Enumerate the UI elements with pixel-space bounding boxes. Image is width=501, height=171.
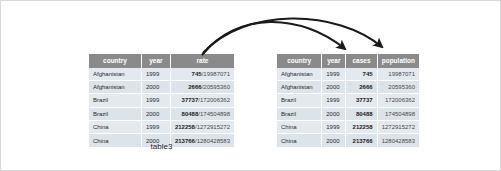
cell-year: 1999 (141, 121, 170, 134)
column-header-cases: cases (346, 54, 377, 68)
cell-year: 2000 (322, 134, 346, 147)
cell-rate: 745/19987071 (170, 68, 234, 81)
cell-country: Brazil (277, 94, 322, 107)
table-row: Afghanistan 1999 745/19987071 (89, 68, 234, 81)
table-body: Afghanistan 1999 745/19987071 Afghanista… (89, 68, 234, 147)
cell-cases: 80488 (346, 107, 377, 120)
cell-population: 19987071 (377, 68, 419, 81)
cell-country: Brazil (89, 94, 141, 107)
cell-country: Brazil (89, 107, 141, 120)
cell-year: 2000 (141, 107, 170, 120)
rate-numerator: 80488 (182, 111, 199, 117)
cell-cases: 2666 (346, 80, 377, 93)
rate-denominator: 19987071 (203, 71, 230, 77)
table-row: China 1999 212258 1272915272 (277, 121, 419, 134)
cell-year: 1999 (322, 68, 346, 81)
table-body: Afghanistan 1999 745 19987071 Afghanista… (277, 68, 419, 147)
column-header-year: year (141, 54, 170, 68)
column-header-country: country (277, 54, 322, 68)
rate-numerator: 2666 (188, 84, 201, 90)
cell-year: 2000 (141, 80, 170, 93)
table-row: Afghanistan 2000 2666 20595360 (277, 80, 419, 93)
cell-cases: 37737 (346, 94, 377, 107)
figure-container: country year rate Afghanistan 1999 745/1… (0, 0, 501, 171)
table-row: Afghanistan 1999 745 19987071 (277, 68, 419, 81)
rate-numerator: 745 (192, 71, 202, 77)
table-row: Brazil 1999 37737 172006362 (277, 94, 419, 107)
figure-caption: table3 (89, 142, 234, 151)
cell-population: 174504898 (377, 107, 419, 120)
column-header-year: year (322, 54, 346, 68)
cell-year: 2000 (322, 107, 346, 120)
cell-population: 20595360 (377, 80, 419, 93)
cell-population: 1280428583 (377, 134, 419, 147)
cell-rate: 212258/1272915272 (170, 121, 234, 134)
cell-year: 1999 (141, 94, 170, 107)
rate-numerator: 212258 (175, 124, 195, 130)
table-header-row: country year cases population (277, 54, 419, 68)
cell-country: Afghanistan (277, 68, 322, 81)
cell-year: 1999 (322, 94, 346, 107)
table-row: Brazil 1999 37737/172006362 (89, 94, 234, 107)
table-row: Brazil 2000 80488/174504898 (89, 107, 234, 120)
cell-rate: 37737/172006362 (170, 94, 234, 107)
cell-year: 2000 (322, 80, 346, 93)
rate-denominator: 20595360 (203, 84, 230, 90)
cell-country: China (277, 134, 322, 147)
table-row: China 2000 213766 1280428583 (277, 134, 419, 147)
table-right-separated: country year cases population Afghanista… (277, 54, 419, 147)
cell-cases: 212258 (346, 121, 377, 134)
table-header-row: country year rate (89, 54, 234, 68)
arrow-rate-to-population (203, 18, 382, 53)
cell-country: Afghanistan (89, 68, 141, 81)
cell-population: 172006362 (377, 94, 419, 107)
rate-denominator: 1272915272 (197, 124, 230, 130)
cell-year: 1999 (141, 68, 170, 81)
cell-rate: 2666/20595360 (170, 80, 234, 93)
column-header-rate: rate (170, 54, 234, 68)
table-row: Afghanistan 2000 2666/20595360 (89, 80, 234, 93)
table-row: Brazil 2000 80488 174504898 (277, 107, 419, 120)
cell-cases: 745 (346, 68, 377, 81)
table3-left: country year rate Afghanistan 1999 745/1… (89, 54, 234, 147)
cell-population: 1272915272 (377, 121, 419, 134)
table-row: China 1999 212258/1272915272 (89, 121, 234, 134)
cell-cases: 213766 (346, 134, 377, 147)
cell-country: Brazil (277, 107, 322, 120)
cell-country: Afghanistan (277, 80, 322, 93)
rate-denominator: 172006362 (200, 97, 230, 103)
column-header-country: country (89, 54, 141, 68)
column-header-population: population (377, 54, 419, 68)
arrow-rate-to-cases (202, 22, 345, 55)
cell-country: China (89, 121, 141, 134)
cell-year: 1999 (322, 121, 346, 134)
rate-denominator: 174504898 (200, 111, 230, 117)
cell-country: China (277, 121, 322, 134)
rate-numerator: 37737 (182, 97, 199, 103)
cell-country: Afghanistan (89, 80, 141, 93)
cell-rate: 80488/174504898 (170, 107, 234, 120)
arrow-overlay (1, 1, 501, 171)
